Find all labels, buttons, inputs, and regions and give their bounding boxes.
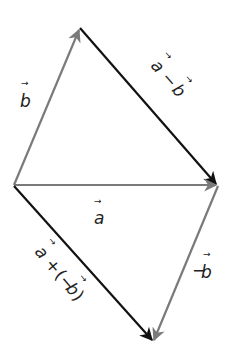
svg-text:b: b [20, 91, 31, 111]
vector-arrow-icon: → [94, 196, 102, 206]
vector-a-plus-neg-b-arrow [14, 186, 152, 340]
label-neg-b: − → b [192, 249, 212, 282]
svg-text:b: b [201, 262, 212, 282]
vector-a-minus-b-arrow [80, 28, 216, 184]
svg-text:a: a [94, 208, 104, 228]
vector-diagram: → b → a − → b → a − → b → a + (− → b ) [0, 0, 237, 356]
label-a-minus-b: → a − → b [147, 49, 198, 101]
label-b: → b [20, 78, 31, 111]
vector-arrow-icon: → [203, 249, 211, 259]
vector-arrow-icon: → [21, 78, 29, 88]
label-a: → a [94, 196, 104, 228]
label-a-plus-neg-b: → a + (− → b ) [31, 235, 96, 305]
